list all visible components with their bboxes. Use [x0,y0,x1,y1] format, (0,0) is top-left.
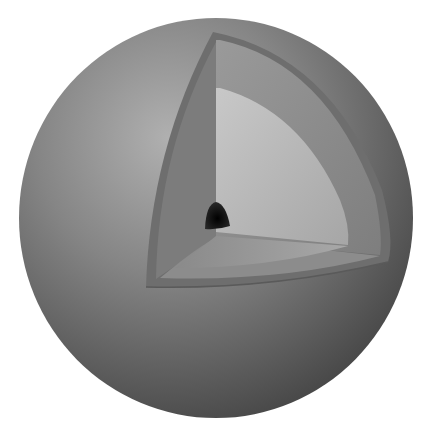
illustration [0,0,427,439]
sphere-cutaway-svg [0,0,427,439]
